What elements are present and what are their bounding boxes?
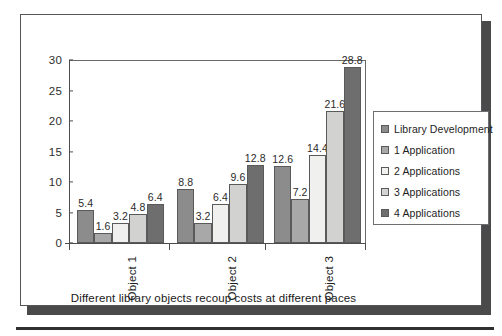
y-tick-label: 0 [55,237,62,249]
legend-item-2-applications: 2 Applications [381,161,488,181]
bar: 3.2 [112,223,129,243]
y-tick-label: 20 [49,115,62,127]
bar-value-label: 3.2 [196,210,211,222]
bar-value-label: 5.4 [78,197,93,209]
legend-item-library-development: Library Development [381,119,488,139]
bar: 6.4 [212,204,229,243]
y-tick-mark [69,120,73,121]
y-tick-mark [69,90,73,91]
bar: 4.8 [129,214,146,243]
bar: 28.8 [344,67,361,243]
bar: 9.6 [229,184,246,243]
x-axis-group-tick [69,243,70,250]
legend-swatch-icon [381,167,389,175]
y-tick-mark [69,59,73,60]
bar-value-label: 12.8 [245,152,266,164]
bar: 14.4 [309,155,326,243]
figure-frame: 051015202530 5.41.63.24.86.48.83.26.49.6… [20,14,482,306]
bar: 21.6 [326,111,343,243]
y-tick-label: 10 [49,176,62,188]
y-tick-25: 25 [49,85,69,97]
legend-swatch-icon [381,125,389,133]
y-tick-30: 30 [49,54,69,66]
y-tick-label: 15 [49,146,62,158]
plot-top-border [69,60,366,61]
bar-value-label: 14.4 [307,142,328,154]
bar-value-label: 3.2 [113,210,128,222]
y-tick-label: 25 [49,85,62,97]
y-tick-mark [69,212,73,213]
chart-legend: Library Development1 Application2 Applic… [373,111,489,225]
y-tick-mark [69,151,73,152]
y-tick-mark [69,181,73,182]
bar: 12.8 [247,165,264,243]
legend-item-4-applications: 4 Applications [381,203,488,223]
bar: 8.8 [177,189,194,243]
bar-value-label: 8.8 [178,176,193,188]
bar: 7.2 [291,199,308,243]
page-bottom-rule [16,327,494,330]
legend-label: 1 Application [394,144,455,156]
legend-label: 3 Applications [394,186,460,198]
bar-value-label: 9.6 [230,171,245,183]
bar: 12.6 [274,166,291,243]
legend-swatch-icon [381,146,389,154]
legend-swatch-icon [381,188,389,196]
bar: 5.4 [77,210,94,243]
y-tick-20: 20 [49,115,69,127]
legend-label: 2 Applications [394,165,460,177]
bar-value-label: 4.8 [130,201,145,213]
bar: 6.4 [147,204,164,243]
bar-value-label: 12.6 [272,153,293,165]
x-axis-line [65,243,366,244]
bar-value-label: 6.4 [148,191,163,203]
plot-right-border [365,60,366,244]
bar-value-label: 6.4 [213,191,228,203]
legend-label: Library Development [394,123,493,135]
legend-item-3-applications: 3 Applications [381,182,488,202]
bar: 1.6 [94,233,111,243]
chart-caption: Different library objects recoup costs a… [41,292,386,304]
y-tick-0: 0 [55,237,69,249]
legend-label: 4 Applications [394,207,460,219]
bar-value-label: 7.2 [293,186,308,198]
y-tick-5: 5 [55,207,69,219]
y-tick-15: 15 [49,146,69,158]
y-tick-10: 10 [49,176,69,188]
x-axis-group-tick [365,243,366,250]
y-tick-label: 5 [55,207,62,219]
x-axis-group-tick [169,243,170,250]
bar-value-label: 1.6 [96,220,111,232]
x-axis-group-tick [265,243,266,250]
bar: 3.2 [194,223,211,243]
bar-value-label: 21.6 [324,98,345,110]
chart-plot-area: 051015202530 5.41.63.24.86.48.83.26.49.6… [69,60,366,243]
bar-value-label: 28.8 [342,54,363,66]
legend-item-1-application: 1 Application [381,140,488,160]
y-tick-label: 30 [49,54,62,66]
legend-swatch-icon [381,209,389,217]
